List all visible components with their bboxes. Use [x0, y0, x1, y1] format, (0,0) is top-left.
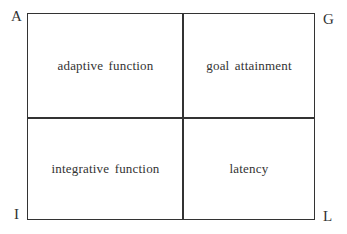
corner-label-a: A [11, 9, 22, 24]
quadrant-label: adaptive function [57, 58, 153, 74]
quadrant-grid: adaptive function goal attainment integr… [27, 13, 315, 220]
quadrant-label: latency [230, 161, 269, 177]
quadrant-adaptive-function: adaptive function [28, 14, 183, 118]
quadrant-goal-attainment: goal attainment [184, 14, 314, 118]
quadrant-latency: latency [184, 119, 314, 218]
agil-diagram: A G I L adaptive function goal attainmen… [0, 0, 347, 234]
corner-label-l: L [323, 209, 332, 224]
quadrant-label: integrative function [51, 161, 159, 177]
quadrant-integrative-function: integrative function [28, 119, 183, 218]
quadrant-label: goal attainment [206, 58, 292, 74]
corner-label-g: G [323, 12, 334, 27]
corner-label-i: I [14, 207, 19, 222]
